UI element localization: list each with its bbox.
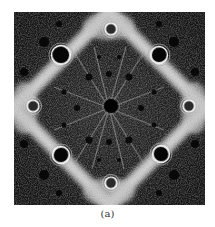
figure-image [14, 12, 205, 205]
figure-caption: (a) [0, 208, 215, 219]
fractal-pattern [14, 12, 205, 205]
